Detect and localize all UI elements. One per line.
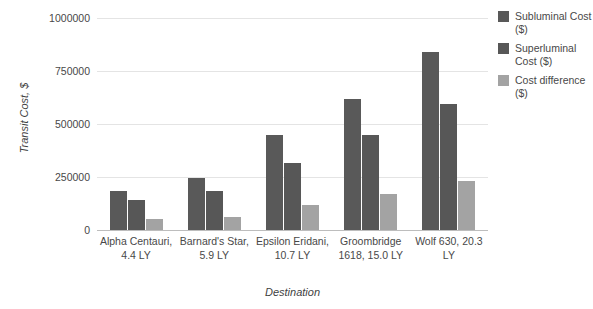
y-axis-tick-label: 0 <box>84 224 90 236</box>
legend-item[interactable]: Superluminal Cost ($) <box>498 42 593 68</box>
bar <box>362 135 379 230</box>
bar <box>440 104 457 230</box>
x-axis-tick-label: Groombridge 1618, 15.0 LY <box>332 234 410 262</box>
legend-item[interactable]: Cost difference ($) <box>498 74 593 100</box>
bar <box>302 205 319 230</box>
bar <box>110 191 127 230</box>
legend-label: Cost difference ($) <box>515 74 593 100</box>
bar-group <box>97 18 175 230</box>
y-axis-tick-label: 250000 <box>55 171 90 183</box>
bar-group <box>332 18 410 230</box>
bar <box>458 181 475 230</box>
x-axis-tick-label: Barnard's Star, 5.9 LY <box>175 234 253 262</box>
legend-swatch-icon <box>498 75 509 86</box>
bar-chart: Transit Cost, $ 100000075000050000025000… <box>0 0 593 309</box>
legend-swatch-icon <box>498 11 509 22</box>
bar <box>344 99 361 230</box>
bar <box>266 135 283 230</box>
axis-baseline: 0 <box>97 230 488 231</box>
x-axis-tick-labels: Alpha Centauri, 4.4 LYBarnard's Star, 5.… <box>97 234 488 286</box>
x-axis-tick-label: Epsilon Eridani, 10.7 LY <box>253 234 331 262</box>
legend: Subluminal Cost ($)Superluminal Cost ($)… <box>498 10 593 106</box>
x-axis-tick-label: Wolf 630, 20.3 LY <box>410 234 488 262</box>
y-axis-title: Transit Cost, $ <box>18 48 30 188</box>
bar-group <box>253 18 331 230</box>
plot-area: 10000007500005000002500000 <box>97 18 488 230</box>
bar <box>128 200 145 230</box>
legend-swatch-icon <box>498 43 509 54</box>
bar <box>206 191 223 230</box>
legend-label: Subluminal Cost ($) <box>515 10 593 36</box>
bar <box>284 163 301 230</box>
x-axis-title: Destination <box>97 286 488 298</box>
y-axis-tick-label: 750000 <box>55 65 90 77</box>
bar <box>380 194 397 230</box>
bar-group <box>175 18 253 230</box>
bar-group <box>410 18 488 230</box>
bars-layer <box>97 18 488 230</box>
legend-label: Superluminal Cost ($) <box>515 42 593 68</box>
bar <box>422 52 439 230</box>
bar <box>146 219 163 230</box>
legend-item[interactable]: Subluminal Cost ($) <box>498 10 593 36</box>
bar <box>188 178 205 230</box>
bar <box>224 217 241 230</box>
y-axis-tick-label: 1000000 <box>49 12 90 24</box>
x-axis-tick-label: Alpha Centauri, 4.4 LY <box>97 234 175 262</box>
y-axis-tick-label: 500000 <box>55 118 90 130</box>
